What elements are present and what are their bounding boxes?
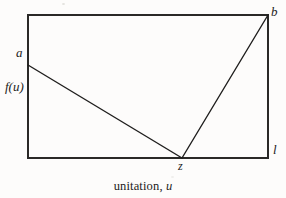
- point-label-a: a: [16, 46, 23, 59]
- point-label-l: l: [273, 143, 277, 156]
- y-axis-label-f-of-u: f(u): [5, 80, 24, 93]
- plot-canvas: [0, 0, 286, 198]
- curve-segment-z-to-b: [182, 15, 268, 158]
- x-axis-caption-variable: u: [166, 179, 172, 193]
- point-label-z: z: [178, 160, 183, 172]
- curve-segment-a-to-z: [28, 65, 182, 158]
- point-label-b: b: [271, 5, 278, 18]
- x-axis-caption: unitation, u: [0, 179, 286, 194]
- figure-container: a f(u) b l z unitation, u: [0, 0, 286, 198]
- x-axis-caption-text: unitation,: [114, 179, 166, 193]
